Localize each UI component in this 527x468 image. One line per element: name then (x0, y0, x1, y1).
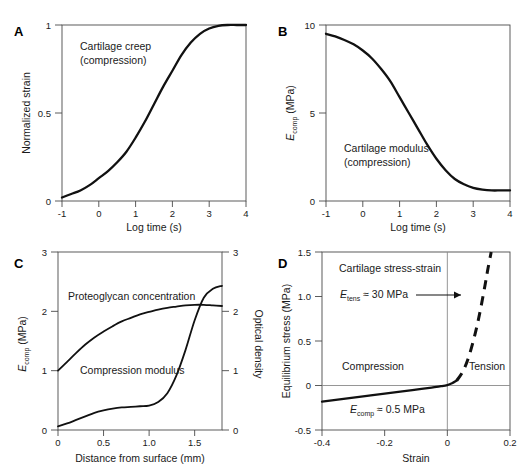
y-tick-label-0: 0 (46, 196, 51, 207)
panel-d: -0.5 0 0.5 1.0 1.5 -0.4 -0.2 0 0.2 Carti… (264, 234, 527, 468)
annotation-line2: (compression) (344, 156, 411, 168)
x-axis-title: Log time (s) (390, 221, 445, 233)
x-tick-label-0: 0 (360, 208, 365, 219)
y-left-label-3: 3 (42, 247, 47, 258)
y-axis-title-subscript: comp (291, 117, 299, 134)
figure-caption (0, 452, 527, 468)
panel-letter-c: C (14, 256, 23, 271)
y-axis-title: Equilibrium stress (MPa) (280, 284, 292, 398)
y-right-label-1: 1 (233, 365, 238, 376)
y-tick-label-15: 1.5 (298, 247, 311, 258)
y-left-unit: (MPa) (16, 316, 28, 348)
y-right-label-3: 3 (233, 247, 238, 258)
annotation-line2: (compression) (80, 54, 147, 66)
y-right-label-0: 0 (233, 425, 238, 436)
y-axis-title: Normalized strain (20, 72, 32, 154)
x-tick-label-1: 1 (133, 208, 138, 219)
x-tick-label-4: 4 (507, 208, 512, 219)
x-tick-label-2: 2 (170, 208, 175, 219)
annotation-ecomp: Ecomp ≈ 0.5 MPa (350, 403, 425, 418)
annotation-modulus: Compression modulus (80, 364, 184, 376)
panel-letter-b: B (278, 24, 287, 39)
plot-frame (326, 25, 510, 201)
panel-c: 0 1 2 3 0 1 2 3 0 0.5 1.0 1.5 Proteoglyc… (0, 234, 264, 468)
panel-letter-a: A (14, 24, 23, 39)
y-tick-label-05: 0.5 (38, 108, 51, 119)
x-tick-label-3: 3 (207, 208, 212, 219)
x-tick-label-02: 0.2 (503, 437, 516, 448)
annotation-arrow-head (454, 292, 461, 299)
x-tick-label-1: 1 (397, 208, 402, 219)
annotation-line1: Cartilage creep (80, 40, 151, 52)
etens-rest: ≈ 30 MPa (360, 288, 408, 300)
label-compression: Compression (342, 360, 404, 372)
x-tick-label-05: 0.5 (97, 437, 110, 448)
y-left-label-2: 2 (42, 306, 47, 317)
y-axis-title: Ecomp (MPa) (284, 85, 299, 141)
panel-a-chart: 0 0.5 1 -1 0 1 2 3 4 Cartilage creep (co… (0, 0, 264, 234)
annotation-proteoglycan: Proteoglycan concentration (68, 290, 195, 302)
panel-d-chart: -0.5 0 0.5 1.0 1.5 -0.4 -0.2 0 0.2 Carti… (264, 234, 527, 468)
y-tick-label-10: 10 (304, 20, 315, 31)
x-axis-title: Log time (s) (126, 221, 181, 233)
y-right-label-2: 2 (233, 306, 238, 317)
panel-a: 0 0.5 1 -1 0 1 2 3 4 Cartilage creep (co… (0, 0, 264, 234)
panel-b: 0 5 10 -1 0 1 2 3 4 Cartilage modulus (c… (264, 0, 527, 234)
panel-title: Cartilage stress-strain (339, 262, 441, 274)
panel-c-chart: 0 1 2 3 0 1 2 3 0 0.5 1.0 1.5 Proteoglyc… (0, 234, 264, 468)
y-left-subscript: comp (23, 348, 31, 365)
x-tick-label-0: 0 (445, 437, 450, 448)
annotation-line1: Cartilage modulus (344, 142, 429, 154)
x-tick-label-0: 0 (96, 208, 101, 219)
x-tick-label-m1: -1 (322, 208, 330, 219)
etens-subscript: tens (347, 295, 361, 302)
x-tick-label-3: 3 (471, 208, 476, 219)
compression-branch-curve (322, 381, 457, 402)
x-tick-label-10: 1.0 (143, 437, 156, 448)
x-tick-label-m04: -0.4 (314, 437, 330, 448)
y-left-label-0: 0 (42, 425, 47, 436)
ecomp-subscript: comp (357, 410, 374, 418)
y-tick-label-0: 0 (310, 196, 315, 207)
panel-letter-d: D (278, 256, 287, 271)
y-left-label-1: 1 (42, 365, 47, 376)
y-tick-label-m05: -0.5 (295, 425, 311, 436)
x-tick-label-15: 1.5 (188, 437, 201, 448)
y-axis-title-left: Ecomp (MPa) (16, 316, 31, 372)
y-tick-label-05: 0.5 (298, 336, 311, 347)
x-tick-label-4: 4 (243, 208, 248, 219)
label-tension: Tension (469, 360, 505, 372)
y-tick-label-1: 1 (46, 20, 51, 31)
plot-frame (58, 252, 222, 430)
y-axis-title-unit: (MPa) (284, 85, 296, 117)
x-tick-label-m02: -0.2 (376, 437, 392, 448)
y-tick-label-10: 1.0 (298, 291, 311, 302)
x-tick-label-2: 2 (434, 208, 439, 219)
panel-b-chart: 0 5 10 -1 0 1 2 3 4 Cartilage modulus (c… (264, 0, 527, 234)
x-tick-label-m1: -1 (58, 208, 66, 219)
compression-modulus-curve (58, 286, 222, 427)
y-tick-label-5: 5 (310, 108, 315, 119)
ecomp-rest: ≈ 0.5 MPa (374, 403, 425, 415)
x-tick-label-0: 0 (55, 437, 60, 448)
y-tick-label-0: 0 (306, 380, 311, 391)
annotation-etens: Etens ≈ 30 MPa (340, 288, 408, 302)
